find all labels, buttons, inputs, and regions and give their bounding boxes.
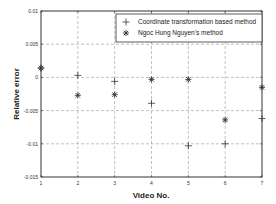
x-tick-label: 2 bbox=[76, 180, 79, 186]
data-point-asterisk bbox=[38, 65, 44, 71]
x-tick-label: 3 bbox=[113, 180, 116, 186]
data-point-asterisk bbox=[112, 92, 118, 98]
y-axis-label: Relative error bbox=[12, 68, 21, 120]
x-tick-label: 1 bbox=[40, 180, 43, 186]
data-point-plus bbox=[148, 100, 155, 107]
data-point-asterisk bbox=[259, 84, 265, 90]
data-point-asterisk bbox=[75, 92, 81, 98]
data-point-plus bbox=[111, 78, 118, 85]
x-tick-label: 5 bbox=[187, 180, 190, 186]
data-point-plus bbox=[222, 140, 229, 147]
data-point-asterisk bbox=[222, 117, 228, 123]
legend: Coordinate transformation based method N… bbox=[116, 14, 262, 42]
x-tick-label: 7 bbox=[261, 180, 264, 186]
y-tick-label: 0.005 bbox=[25, 41, 38, 47]
legend-label-ngoc-hung-nguyen: Ngoc Hung Nguyen’s method bbox=[138, 29, 223, 37]
y-tick-label: 0.01 bbox=[28, 8, 38, 14]
data-point-plus bbox=[185, 142, 192, 149]
legend-label-coordinate-transformation: Coordinate transformation based method bbox=[138, 18, 257, 25]
data-point-asterisk bbox=[185, 76, 191, 82]
y-tick-label: -0.01 bbox=[27, 141, 39, 147]
legend-asterisk-marker-icon bbox=[123, 30, 129, 36]
x-tick-label: 4 bbox=[150, 180, 153, 186]
y-tick-label: 0 bbox=[35, 74, 38, 80]
x-axis-label: Video No. bbox=[133, 191, 170, 200]
y-tick-label: -0.005 bbox=[24, 108, 38, 114]
data-point-plus bbox=[259, 115, 266, 122]
data-point-asterisk bbox=[149, 76, 155, 82]
scatter-chart: 1234567 0.010.0050-0.005-0.01-0.015 Vide… bbox=[0, 0, 276, 204]
data-point-plus bbox=[74, 72, 81, 79]
x-tick-label: 6 bbox=[224, 180, 227, 186]
y-tick-label: -0.015 bbox=[24, 174, 38, 180]
legend-asterisk-marker bbox=[123, 30, 129, 36]
